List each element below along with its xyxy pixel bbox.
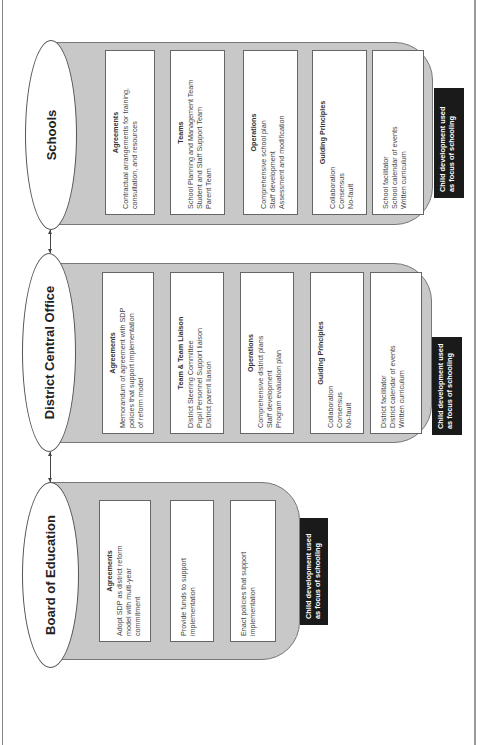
card-title: Team & Team Liaison [176, 278, 185, 428]
card-line: Staff development [265, 278, 274, 428]
schools-card-teams: Teams School Planning and Management Tea… [170, 50, 225, 215]
card-line: District Steering Committee [186, 278, 195, 428]
card-line: Collaboration [328, 56, 337, 209]
card-line: Program evaluation plan [274, 278, 283, 428]
card-title: Guiding Principles [316, 278, 325, 428]
focus-line: as focus of schooling [313, 524, 322, 619]
schools-ellipse: Schools [25, 40, 77, 230]
card-line: Enact policies that support [239, 506, 248, 636]
focus-line: Child development used [438, 94, 447, 192]
card-line: implementation [248, 506, 257, 636]
card-title: Teams [176, 56, 185, 209]
card-line: consultation, and resources [130, 56, 139, 209]
schools-title: Schools [44, 110, 59, 161]
arrow-district-schools [50, 230, 51, 253]
card-title: Agreements [108, 278, 117, 428]
district-card-team-liaison: Team & Team Liaison District Steering Co… [170, 272, 224, 434]
card-line: District facilitator [379, 278, 388, 428]
focus-line: as focus of schooling [445, 343, 454, 429]
card-line: policies that support implementation [127, 278, 136, 428]
card-line: Collaboration [326, 278, 335, 428]
card-line: Parent Team [204, 56, 213, 209]
board-of-education-ellipse: Board of Education [22, 482, 79, 668]
card-line: Pupil Personnel Support liaison [195, 278, 204, 428]
card-line: Consensus [337, 56, 346, 209]
card-line: School calendar of events [390, 56, 399, 209]
district-card-guiding-principles: Guiding Principles Collaboration Consens… [310, 272, 364, 434]
card-title: Agreements [111, 56, 120, 209]
card-title: Operations [246, 278, 255, 428]
district-central-office-ellipse: District Central Office [22, 253, 76, 452]
card-line: Adopt SDP as district reform [115, 506, 124, 636]
schools-focus-label: Child development used as focus of schoo… [434, 88, 464, 198]
card-line: No-fault [344, 278, 353, 428]
card-line: Written curriculum [397, 278, 406, 428]
card-title: Operations [249, 56, 258, 209]
card-line: School Planning and Management Team [186, 56, 195, 209]
card-line: Staff development [268, 56, 277, 209]
card-line: District parent liaison [204, 278, 213, 428]
card-line: implementation [188, 506, 197, 636]
schools-card-guiding-principles: Guiding Principles Collaboration Consens… [312, 50, 367, 215]
card-line: No-fault [346, 56, 355, 209]
schools-card-operations: Operations Comprehensive school plan Sta… [243, 50, 298, 215]
card-line: of reform model [136, 278, 145, 428]
diagram-canvas: Board of Education Agreements Adopt SDP … [0, 0, 484, 745]
card-line: Consensus [335, 278, 344, 428]
schools-card-facilitator: School facilitator School calendar of ev… [372, 50, 424, 215]
board-card-agreements: Agreements Adopt SDP as district reform … [99, 500, 151, 642]
district-card-facilitator: District facilitator District calendar o… [370, 272, 422, 434]
card-line: Provide funds to support [179, 506, 188, 636]
arrow-board-district [50, 452, 51, 482]
card-line: Contractual arrangements for training, [121, 56, 130, 209]
card-line: Written curriculum [399, 56, 408, 209]
schools-card-agreements: Agreements Contractual arrangements for … [105, 50, 155, 215]
card-title: Guiding Principles [318, 56, 327, 209]
card-line: Student and Staff Support Team [195, 56, 204, 209]
card-title: Agreements [105, 506, 114, 636]
card-line: Comprehensive school plan [259, 56, 268, 209]
card-line: District calendar of events [388, 278, 397, 428]
card-line: model with multi-year [124, 506, 133, 636]
board-focus-label: Child development used as focus of schoo… [300, 518, 328, 625]
board-card-funds: Provide funds to support implementation [170, 500, 214, 642]
card-line: Comprehensive district plans [256, 278, 265, 428]
card-line: commitment [133, 506, 142, 636]
focus-line: as focus of schooling [447, 94, 456, 192]
board-card-policies: Enact policies that support implementati… [230, 500, 276, 642]
focus-line: Child development used [304, 524, 313, 619]
board-of-education-title: Board of Education [43, 515, 58, 635]
card-line: School facilitator [381, 56, 390, 209]
district-central-office-title: District Central Office [42, 286, 57, 420]
card-line: Assessment and modification [277, 56, 286, 209]
focus-line: Child development used [436, 343, 445, 429]
district-card-agreements: Agreements Memorandum of agreement with … [102, 272, 154, 434]
district-focus-label: Child development used as focus of schoo… [432, 337, 462, 435]
card-line: Memorandum of agreement with SDP [118, 278, 127, 428]
district-card-operations: Operations Comprehensive district plans … [240, 272, 294, 434]
